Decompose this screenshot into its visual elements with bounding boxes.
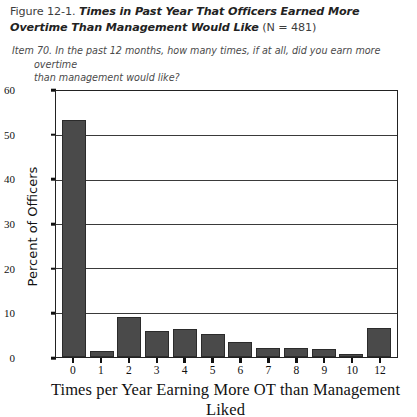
y-tick-label-60: 60 bbox=[0, 84, 15, 96]
x-tick-mark-9 bbox=[310, 358, 338, 363]
x-tick-label-3: 3 bbox=[143, 364, 171, 380]
bar-chart: Percent of Officers 0102030405060 012345… bbox=[0, 84, 417, 417]
x-tick-label-8: 8 bbox=[282, 364, 310, 380]
bar-9 bbox=[312, 349, 336, 357]
survey-item-note: Item 70. In the past 12 months, how many… bbox=[12, 44, 404, 85]
x-tick-mark-1 bbox=[87, 358, 115, 363]
figure-caption: Figure 12-1. Times in Past Year That Off… bbox=[10, 4, 408, 36]
survey-item-line-2: than management would like? bbox=[12, 71, 404, 85]
figure-number: Figure 12-1. bbox=[10, 5, 75, 18]
x-tick-label-2: 2 bbox=[115, 364, 143, 380]
y-tick-label-20: 20 bbox=[0, 263, 15, 275]
x-tick-label-7: 7 bbox=[254, 364, 282, 380]
bar-cell-2 bbox=[116, 91, 144, 357]
x-tick-label-4: 4 bbox=[171, 364, 199, 380]
bar-cell-8 bbox=[282, 91, 310, 357]
x-tick-label-6: 6 bbox=[227, 364, 255, 380]
x-tick-mark-3 bbox=[143, 358, 171, 363]
bar-5 bbox=[201, 334, 225, 357]
x-tick-mark-8 bbox=[282, 358, 310, 363]
x-axis-title: Times per Year Earning More OT than Mana… bbox=[34, 380, 417, 417]
bar-7 bbox=[256, 348, 280, 357]
bar-6 bbox=[228, 342, 252, 357]
bar-series bbox=[56, 91, 397, 357]
x-tick-mark-10 bbox=[338, 358, 366, 363]
figure-sample-size: (N = 481) bbox=[262, 21, 316, 34]
bar-10 bbox=[339, 354, 363, 357]
x-tick-mark-6 bbox=[227, 358, 255, 363]
bar-12 bbox=[367, 328, 391, 357]
x-tick-mark-2 bbox=[115, 358, 143, 363]
bar-cell-10 bbox=[338, 91, 366, 357]
bar-cell-7 bbox=[254, 91, 282, 357]
x-tick-label-9: 9 bbox=[310, 364, 338, 380]
bar-cell-12 bbox=[365, 91, 393, 357]
y-tick-label-50: 50 bbox=[0, 129, 15, 141]
bar-4 bbox=[173, 329, 197, 357]
bar-cell-3 bbox=[143, 91, 171, 357]
bar-2 bbox=[117, 317, 141, 357]
y-tick-label-40: 40 bbox=[0, 173, 15, 185]
x-tick-label-12: 12 bbox=[366, 364, 394, 380]
x-axis-tick-labels: 01234567891012 bbox=[55, 364, 398, 380]
x-tick-label-1: 1 bbox=[87, 364, 115, 380]
x-tick-mark-12 bbox=[366, 358, 394, 363]
bar-0 bbox=[62, 120, 86, 357]
x-tick-label-10: 10 bbox=[338, 364, 366, 380]
x-tick-mark-4 bbox=[171, 358, 199, 363]
plot-area bbox=[55, 90, 398, 358]
bar-cell-6 bbox=[227, 91, 255, 357]
bar-cell-0 bbox=[60, 91, 88, 357]
x-tick-mark-5 bbox=[199, 358, 227, 363]
bar-3 bbox=[145, 331, 169, 357]
x-tick-label-5: 5 bbox=[199, 364, 227, 380]
figure-page: Figure 12-1. Times in Past Year That Off… bbox=[0, 0, 417, 417]
x-axis-tick-marks bbox=[55, 358, 398, 363]
x-tick-label-0: 0 bbox=[59, 364, 87, 380]
y-axis-title: Percent of Officers bbox=[25, 112, 40, 342]
y-tick-label-0: 0 bbox=[0, 352, 15, 364]
bar-cell-5 bbox=[199, 91, 227, 357]
y-tick-label-10: 10 bbox=[0, 307, 15, 319]
x-tick-mark-7 bbox=[254, 358, 282, 363]
survey-item-line-1: Item 70. In the past 12 months, how many… bbox=[12, 44, 404, 71]
x-tick-mark-0 bbox=[59, 358, 87, 363]
y-tick-label-30: 30 bbox=[0, 218, 15, 230]
bar-1 bbox=[90, 351, 114, 357]
bar-cell-4 bbox=[171, 91, 199, 357]
bar-cell-1 bbox=[88, 91, 116, 357]
bar-cell-9 bbox=[310, 91, 338, 357]
bar-8 bbox=[284, 348, 308, 357]
